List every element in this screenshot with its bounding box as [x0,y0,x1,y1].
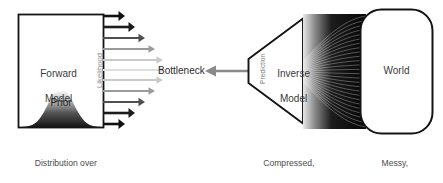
world-caption-line2: high-dimensional [362,181,427,183]
likelihood-arrow-head [129,22,136,32]
likelihood-arrow-head [149,87,156,95]
forward-model-caption-bold: relevant [26,181,59,183]
forward-model-caption-rest: parameters [59,181,105,183]
inverse-model-caption: Compressed, no uncertainty [238,146,330,182]
likelihood-arrow-head [157,76,164,84]
inverse-model-label-line1: Inverse [277,68,310,79]
likelihood-label: Likelihood [95,53,104,88]
likelihood-arrow-head [129,108,136,118]
likelihood-arrow-head [139,34,146,42]
world-caption: Messy, high-dimensional [340,146,440,182]
world-caption-line1: Messy, [381,158,408,168]
prior-label: Prior [39,97,83,109]
world-label: World [361,65,432,78]
likelihood-arrow-head [157,56,164,64]
forward-model-caption: Distribution over relevant parameters [6,146,116,182]
inverse-model-caption-line2: no uncertainty [262,181,316,183]
bottleneck-arrow [205,66,248,77]
likelihood-arrow-head [119,11,126,21]
inverse-model-label: Inverse Model [264,55,312,118]
diagram-canvas: Forward Model Prior Likelihood Bottlenec… [0,0,443,182]
likelihood-arrow-head [139,98,146,106]
inverse-model-label-line2: Model [280,93,307,104]
likelihood-arrow-head [149,45,156,53]
likelihood-arrow-group [103,11,165,129]
bottleneck-label: Bottleneck [158,65,205,76]
world-complexity-fan [303,14,366,129]
inverse-model-caption-line1: Compressed, [263,158,314,168]
forward-model-label-line1: Forward [40,68,77,79]
likelihood-arrow-head [119,119,126,129]
forward-model-caption-line1: Distribution over [35,158,97,168]
